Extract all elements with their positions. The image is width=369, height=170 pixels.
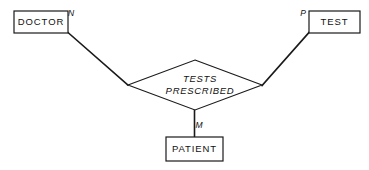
cardinality-label-n: N bbox=[68, 8, 75, 18]
cardinality-label-m: M bbox=[195, 120, 203, 130]
cardinality-label-p: P bbox=[300, 8, 306, 18]
connector-doctor-relationship bbox=[68, 33, 128, 86]
er-diagram-canvas: DOCTOR TEST PATIENT TESTS PRESCRIBED N P… bbox=[0, 0, 369, 170]
entity-label-doctor: DOCTOR bbox=[18, 16, 64, 27]
relationship-label-line2: PRESCRIBED bbox=[166, 85, 235, 96]
entity-label-patient: PATIENT bbox=[172, 143, 217, 154]
entity-label-test: TEST bbox=[321, 16, 349, 27]
relationship-label-line1: TESTS bbox=[183, 73, 217, 84]
connector-test-relationship bbox=[262, 33, 309, 86]
er-diagram-svg: DOCTOR TEST PATIENT TESTS PRESCRIBED N P… bbox=[0, 0, 369, 170]
